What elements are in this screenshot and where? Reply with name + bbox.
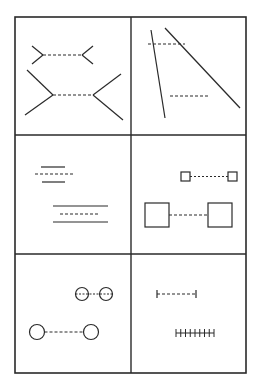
panel-ticks	[157, 290, 214, 337]
panel-circles	[30, 288, 113, 340]
panel-muller-lyer	[25, 46, 123, 120]
illusion-figure	[0, 0, 260, 389]
panel-parallel-lines	[35, 167, 108, 222]
panel-oblique-lines	[148, 28, 240, 118]
panel-squares	[145, 172, 237, 227]
